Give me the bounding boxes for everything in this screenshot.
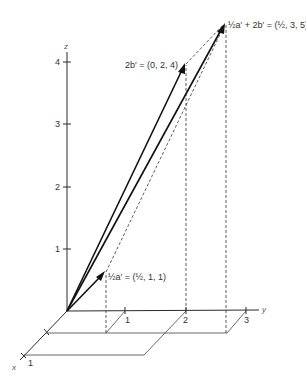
label-half-a-prime: ½a′ = (½, 1, 1) [108, 272, 166, 282]
z-tick-1: 1 [55, 244, 60, 254]
z-tick-3: 3 [55, 119, 60, 129]
x-tick-1: 1 [28, 358, 33, 368]
label-sum: ½a′ + 2b′ = (½, 3, 5) [228, 20, 306, 30]
y-tick-1: 1 [125, 315, 130, 325]
dashed-projections [106, 25, 226, 333]
z-tick-4: 4 [55, 57, 60, 67]
floor-projection [24, 311, 246, 355]
y-tick-3: 3 [244, 315, 249, 325]
x-axis-label: x [11, 363, 17, 372]
label-two-b-prime: 2b′ = (0, 2, 4) [125, 60, 178, 70]
z-axis-label: z [63, 42, 68, 51]
z-axis: z 4 3 2 1 [55, 42, 71, 311]
y-axis-label: y [261, 305, 267, 314]
vector-addition-diagram: z 4 3 2 1 y 1 2 3 x 1 [0, 0, 306, 386]
x-axis: x 1 [11, 311, 67, 372]
y-tick-2: 2 [183, 315, 188, 325]
z-tick-2: 2 [55, 182, 60, 192]
